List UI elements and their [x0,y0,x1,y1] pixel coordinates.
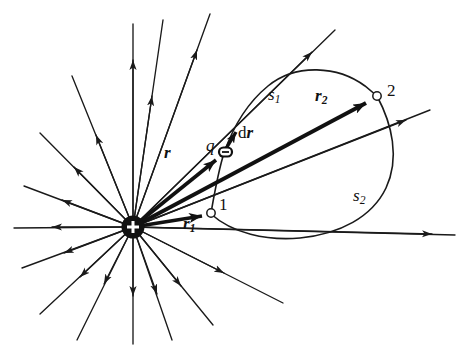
field-line-arrow [74,167,133,227]
label-r: r [164,144,171,161]
field-line-arrow [133,227,432,234]
label-point-1: 1 [219,196,228,213]
positive-point-charge [122,216,145,239]
field-diagram-svg [0,0,468,358]
label-dr: dr [238,124,253,141]
point-1-marker [207,209,215,217]
label-q: q [206,137,215,154]
label-s1: s1 [268,86,281,106]
label-r1: r1 [183,215,196,235]
figure-root: r r1 r2 dr q s1 s2 1 2 [0,0,468,358]
field-line-arrow [133,120,406,227]
field-line-arrow [133,96,152,227]
test-charge-q-marker [219,148,232,157]
field-line-arrow [96,135,133,227]
point-2-marker [373,92,381,100]
path-s2 [211,96,393,239]
vector-r2 [133,103,366,227]
label-s2: s2 [353,187,366,207]
label-point-2: 2 [387,82,396,99]
label-r2: r2 [315,87,328,107]
